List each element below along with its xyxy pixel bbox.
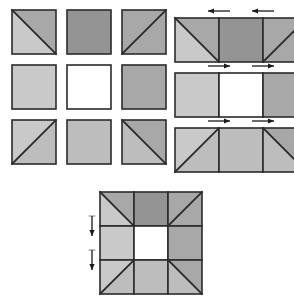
joined-r1c3 bbox=[263, 18, 294, 62]
block-r2c1-fill bbox=[100, 226, 134, 260]
joined-row-3-press-arrow-2-head bbox=[268, 118, 274, 123]
joined-row-1-press-arrow-2 bbox=[252, 8, 274, 13]
block-press-arrow-2 bbox=[89, 250, 96, 270]
block-r1c2-fill bbox=[134, 192, 168, 226]
joined-r3c2-fill bbox=[219, 128, 263, 172]
block-r2c2 bbox=[134, 226, 168, 260]
separate-units-panel bbox=[12, 10, 166, 164]
joined-row-3 bbox=[175, 118, 294, 172]
unit-r3c2-fill bbox=[67, 120, 111, 164]
block-r1c3 bbox=[168, 192, 202, 226]
unit-r1c2 bbox=[67, 10, 111, 54]
joined-row-2-press-arrow-2 bbox=[252, 63, 274, 68]
joined-row-1-press-arrow-1 bbox=[208, 8, 230, 13]
joined-r2c2-fill bbox=[219, 73, 263, 117]
joined-r3c1 bbox=[175, 128, 219, 172]
block-r3c3 bbox=[168, 260, 202, 294]
joined-r2c1 bbox=[175, 73, 219, 117]
block-press-arrow-1 bbox=[89, 216, 96, 236]
joined-row-3-press-arrow-1 bbox=[208, 118, 230, 123]
joined-row-2-press-arrow-1-head bbox=[224, 63, 230, 68]
joined-row-1-press-arrow-2-head bbox=[252, 8, 258, 13]
block-r3c2-fill bbox=[134, 260, 168, 294]
joined-row-3-press-arrow-2 bbox=[252, 118, 274, 123]
joined-r3c2 bbox=[219, 128, 263, 172]
unit-r2c1-fill bbox=[12, 65, 56, 109]
block-r3c1 bbox=[100, 260, 134, 294]
finished-block-panel bbox=[89, 192, 203, 294]
block-r1c2 bbox=[134, 192, 168, 226]
unit-r2c3-fill bbox=[122, 65, 166, 109]
joined-r2c1-fill bbox=[175, 73, 219, 117]
joined-row-1 bbox=[175, 8, 294, 62]
joined-r2c3 bbox=[263, 73, 294, 117]
unit-r3c1 bbox=[12, 120, 56, 164]
joined-r1c2-fill bbox=[219, 18, 263, 62]
block-press-arrow-1-head bbox=[89, 230, 94, 236]
joined-row-1-press-arrow-1-head bbox=[208, 8, 214, 13]
block-r3c2 bbox=[134, 260, 168, 294]
unit-r1c3 bbox=[122, 10, 166, 54]
unit-r2c2 bbox=[67, 65, 111, 109]
block-row-1 bbox=[100, 192, 202, 226]
unit-r3c3 bbox=[122, 120, 166, 164]
units-row-2 bbox=[12, 65, 166, 109]
joined-row-2 bbox=[175, 63, 294, 117]
block-row-2 bbox=[100, 226, 202, 260]
joined-row-2-press-arrow-1 bbox=[208, 63, 230, 68]
diagram-canvas bbox=[0, 0, 294, 300]
joined-row-3-press-arrow-1-head bbox=[224, 118, 230, 123]
joined-rows-panel bbox=[175, 8, 294, 172]
block-row-3 bbox=[100, 260, 202, 294]
block-r1c1 bbox=[100, 192, 134, 226]
unit-r1c1 bbox=[12, 10, 56, 54]
block-r2c3-fill bbox=[168, 226, 202, 260]
joined-r1c1 bbox=[175, 18, 219, 62]
unit-r2c1 bbox=[12, 65, 56, 109]
quilt-assembly-diagram bbox=[0, 0, 294, 300]
units-row-3 bbox=[12, 120, 166, 164]
block-r2c1 bbox=[100, 226, 134, 260]
block-press-arrow-2-head bbox=[89, 264, 94, 270]
block-r2c3 bbox=[168, 226, 202, 260]
joined-row-2-press-arrow-2-head bbox=[268, 63, 274, 68]
joined-r1c2 bbox=[219, 18, 263, 62]
block-r2c2-fill bbox=[134, 226, 168, 260]
units-row-1 bbox=[12, 10, 166, 54]
unit-r1c2-fill bbox=[67, 10, 111, 54]
unit-r3c2 bbox=[67, 120, 111, 164]
joined-r2c2 bbox=[219, 73, 263, 117]
joined-r3c3 bbox=[263, 128, 294, 172]
unit-r2c3 bbox=[122, 65, 166, 109]
joined-r2c3-fill bbox=[263, 73, 294, 117]
unit-r2c2-fill bbox=[67, 65, 111, 109]
